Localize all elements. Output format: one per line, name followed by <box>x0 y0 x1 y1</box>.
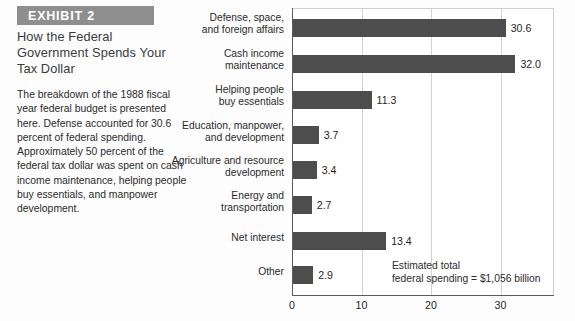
bar-value-label: 3.4 <box>322 161 337 179</box>
bar <box>293 266 313 284</box>
category-label: Cash incomemaintenance <box>134 48 284 73</box>
bar-value-label: 11.3 <box>377 91 397 109</box>
category-label-line: Defense, space, <box>134 12 284 24</box>
category-label-line: Other <box>134 266 284 278</box>
category-label-line: development <box>134 167 284 179</box>
bar <box>293 232 386 250</box>
category-label-line: Cash income <box>134 48 284 60</box>
bar <box>293 19 506 37</box>
category-label-line: transportation <box>134 202 284 214</box>
category-label-line: Helping people <box>134 84 284 96</box>
exhibit-banner-label: EXHIBIT 2 <box>28 9 95 23</box>
chart-row: Energy andtransportation2.7 <box>186 192 575 228</box>
bar <box>293 55 515 73</box>
bar-value-label: 30.6 <box>511 19 532 37</box>
chart-row: Defense, space,and foreign affairs30.6 <box>186 14 575 50</box>
category-label: Net interest <box>134 232 284 244</box>
category-label-line: Energy and <box>134 190 284 202</box>
category-label-line: Education, manpower, <box>134 120 284 132</box>
bar-value-label: 13.4 <box>391 232 412 250</box>
category-label-line: and development <box>134 132 284 144</box>
x-tick-label: 20 <box>418 299 444 311</box>
category-label-line: buy essentials <box>134 96 284 108</box>
category-label: Education, manpower,and development <box>134 120 284 145</box>
bar <box>293 161 317 179</box>
x-tick-label: 0 <box>279 299 305 311</box>
bar-value-label: 32.0 <box>520 55 541 73</box>
bar-chart: Defense, space,and foreign affairs30.6Ca… <box>186 0 575 321</box>
chart-row: Helping peoplebuy essentials11.3 <box>186 86 575 122</box>
category-label-line: Agriculture and resource <box>134 155 284 167</box>
x-tick-label: 10 <box>349 299 375 311</box>
category-label-line: maintenance <box>134 60 284 72</box>
bar <box>293 91 372 109</box>
annotation-line: Estimated total <box>392 259 564 272</box>
category-label: Agriculture and resourcedevelopment <box>134 155 284 180</box>
category-label: Helping peoplebuy essentials <box>134 84 284 109</box>
category-label: Defense, space,and foreign affairs <box>134 12 284 37</box>
bar-value-label: 3.7 <box>324 126 339 144</box>
bar-value-label: 2.7 <box>317 196 332 214</box>
annotation-line: federal spending = $1,056 billion <box>392 272 564 285</box>
chart-annotation: Estimated totalfederal spending = $1,056… <box>392 259 564 285</box>
category-label-line: Net interest <box>134 232 284 244</box>
bar-value-label: 2.9 <box>318 266 333 284</box>
category-label-line: and foreign affairs <box>134 24 284 36</box>
bar <box>293 196 312 214</box>
chart-row: Cash incomemaintenance32.0 <box>186 50 575 86</box>
chart-row: Education, manpower,and development3.7 <box>186 122 575 158</box>
chart-row: Agriculture and resourcedevelopment3.4 <box>186 157 575 193</box>
category-label: Other <box>134 266 284 278</box>
bar <box>293 126 319 144</box>
x-tick-label: 30 <box>488 299 514 311</box>
exhibit-page: EXHIBIT 2 How the Federal Government Spe… <box>0 0 575 321</box>
category-label: Energy andtransportation <box>134 190 284 215</box>
